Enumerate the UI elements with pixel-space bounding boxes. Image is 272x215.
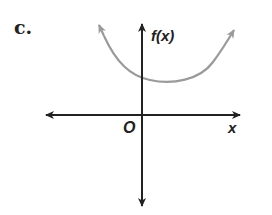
part-label: c.	[14, 16, 32, 38]
function-graph: c. f(x) x O	[0, 0, 272, 215]
origin-label: O	[123, 119, 136, 136]
function-curve-left-end	[99, 25, 104, 36]
y-axis-label: f(x)	[151, 27, 174, 44]
x-axis-label: x	[227, 119, 237, 136]
